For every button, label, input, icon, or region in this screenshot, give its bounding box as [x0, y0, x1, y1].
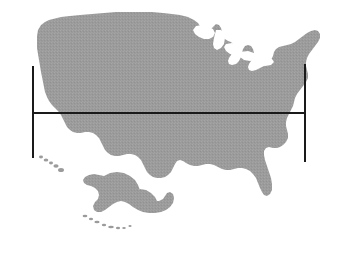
- map-stage: United States map silhouette with horizo…: [0, 0, 350, 257]
- map-figure-root: United States map silhouette with horizo…: [0, 0, 350, 257]
- us-map-svg: United States map silhouette with horizo…: [0, 0, 350, 257]
